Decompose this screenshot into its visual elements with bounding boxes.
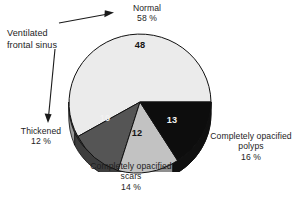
- callout-polyps: Completely opacified polyps 16 %: [205, 131, 297, 162]
- slice-value-thickened: 10: [100, 113, 111, 123]
- callout-normal: Normal 58 %: [118, 3, 176, 24]
- arrow-to-thickened-icon: [45, 49, 55, 123]
- callout-thickened-percent: 12 %: [10, 136, 72, 146]
- callout-scars-percent: 14 %: [63, 182, 199, 192]
- callout-ventilated-line2: frontal sinus: [7, 39, 57, 51]
- callout-ventilated: Ventilated frontal sinus: [7, 27, 57, 51]
- callout-scars: Completely opacified scars 14 %: [63, 161, 199, 192]
- slice-value-scars: 12: [132, 128, 143, 138]
- callout-polyps-line2: polyps: [205, 141, 297, 151]
- callout-ventilated-line1: Ventilated: [7, 27, 57, 39]
- callout-polyps-percent: 16 %: [205, 152, 297, 162]
- callout-thickened-label: Thickened: [10, 126, 72, 136]
- callout-thickened: Thickened 12 %: [10, 126, 72, 147]
- slice-value-normal: 48: [135, 40, 146, 50]
- callout-scars-line1: Completely opacified: [63, 161, 199, 171]
- arrow-to-normal-icon: [59, 10, 114, 23]
- callout-normal-percent: 58 %: [118, 13, 176, 23]
- callout-scars-line2: scars: [63, 171, 199, 181]
- slice-value-polyps: 13: [167, 115, 178, 125]
- figure-canvas: 48 13 12 10 Normal 58 % Ventilated front…: [0, 0, 298, 202]
- callout-normal-label: Normal: [118, 3, 176, 13]
- callout-polyps-line1: Completely opacified: [205, 131, 297, 141]
